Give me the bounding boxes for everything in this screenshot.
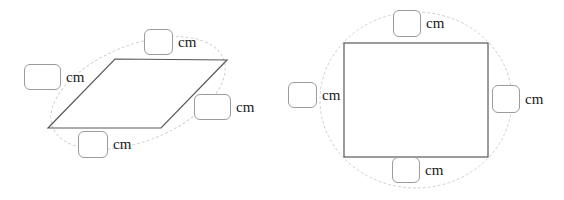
rectangle-top-side-input[interactable] — [393, 10, 421, 37]
parallelogram-left-side-unit: cm — [66, 70, 84, 85]
rectangle-right-side-field[interactable]: cm — [492, 85, 543, 113]
parallelogram-right-side-unit: cm — [236, 100, 254, 115]
parallelogram-top-side-field[interactable]: cm — [144, 29, 196, 55]
parallelogram-right-side-field[interactable]: cm — [194, 94, 254, 120]
parallelogram-top-side-unit: cm — [178, 35, 196, 50]
rectangle-left-side-field[interactable]: cm — [288, 82, 340, 108]
rectangle-left-side-unit: cm — [322, 88, 340, 103]
rectangle-bottom-side-unit: cm — [425, 163, 443, 178]
parallelogram-left-side-field[interactable]: cm — [24, 64, 84, 90]
rectangle-bottom-side-field[interactable]: cm — [392, 157, 443, 183]
rectangle-left-side-input[interactable] — [288, 82, 317, 108]
parallelogram-left-side-input[interactable] — [24, 64, 61, 90]
rectangle-bottom-side-input[interactable] — [392, 157, 420, 183]
parallelogram-guide-ellipse — [35, 14, 242, 172]
worksheet-canvas: cm cm cm cm cm cm cm — [0, 0, 564, 200]
rectangle-top-side-unit: cm — [426, 16, 444, 31]
parallelogram-bottom-side-field[interactable]: cm — [78, 131, 131, 158]
figure-parallelogram: cm cm cm cm — [0, 0, 282, 200]
rectangle-top-side-field[interactable]: cm — [393, 10, 444, 37]
parallelogram-top-side-input[interactable] — [144, 29, 173, 55]
parallelogram-bottom-side-unit: cm — [113, 137, 131, 152]
figure-rectangle: cm cm cm cm — [282, 0, 564, 200]
parallelogram-right-side-input[interactable] — [194, 94, 231, 120]
parallelogram-bottom-side-input[interactable] — [78, 131, 108, 158]
rectangle-outline — [344, 43, 488, 157]
rectangle-right-side-input[interactable] — [492, 85, 520, 113]
rectangle-right-side-unit: cm — [525, 92, 543, 107]
